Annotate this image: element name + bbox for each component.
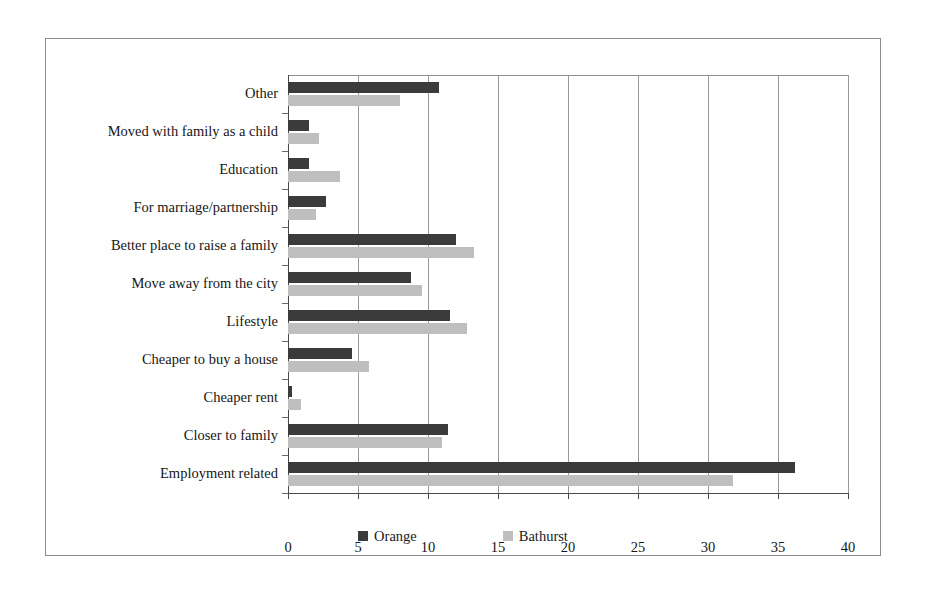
legend-item-bathurst[interactable]: Bathurst	[503, 529, 568, 543]
bar-group	[288, 303, 848, 341]
bar-bathurst[interactable]	[288, 285, 422, 296]
x-tick-mark-35	[778, 494, 779, 499]
gridline-40	[848, 75, 849, 493]
bar-group	[288, 455, 848, 493]
bar-group	[288, 417, 848, 455]
bar-bathurst[interactable]	[288, 247, 474, 258]
bar-group	[288, 75, 848, 113]
bar-orange[interactable]	[288, 386, 292, 397]
category-label: Cheaper to buy a house	[142, 352, 278, 366]
x-tick-mark-25	[638, 494, 639, 499]
bar-group	[288, 379, 848, 417]
bar-orange[interactable]	[288, 424, 448, 435]
bar-orange[interactable]	[288, 158, 309, 169]
bar-bathurst[interactable]	[288, 95, 400, 106]
x-tick-mark-40	[848, 494, 849, 499]
y-tick-mark	[282, 379, 288, 380]
x-tick-mark-0	[288, 494, 289, 499]
category-label: Lifestyle	[226, 314, 278, 328]
bar-group	[288, 189, 848, 227]
y-tick-mark	[282, 113, 288, 114]
bar-bathurst[interactable]	[288, 361, 369, 372]
category-label: Education	[219, 162, 278, 176]
bar-bathurst[interactable]	[288, 437, 442, 448]
bar-group	[288, 265, 848, 303]
bar-orange[interactable]	[288, 462, 795, 473]
bar-orange[interactable]	[288, 272, 411, 283]
bar-orange[interactable]	[288, 310, 450, 321]
bar-bathurst[interactable]	[288, 171, 340, 182]
bar-bathurst[interactable]	[288, 133, 319, 144]
category-label: Better place to raise a family	[111, 238, 278, 252]
chart-legend: Orange Bathurst	[45, 529, 881, 543]
bar-bathurst[interactable]	[288, 475, 733, 486]
y-tick-mark	[282, 303, 288, 304]
bar-orange[interactable]	[288, 234, 456, 245]
bar-group	[288, 341, 848, 379]
y-tick-mark	[282, 341, 288, 342]
category-label: Cheaper rent	[204, 390, 278, 404]
legend-swatch-bathurst	[503, 531, 513, 541]
chart-figure-frame: OtherMoved with family as a childEducati…	[45, 38, 881, 556]
y-tick-mark	[282, 151, 288, 152]
y-tick-mark	[282, 455, 288, 456]
legend-label-bathurst: Bathurst	[519, 529, 568, 543]
legend-item-orange[interactable]: Orange	[358, 529, 417, 543]
x-tick-mark-30	[708, 494, 709, 499]
bar-orange[interactable]	[288, 120, 309, 131]
x-tick-mark-20	[568, 494, 569, 499]
legend-swatch-orange	[358, 531, 368, 541]
bar-bathurst[interactable]	[288, 209, 316, 220]
bar-bathurst[interactable]	[288, 323, 467, 334]
plot-area	[288, 75, 848, 493]
x-tick-mark-5	[358, 494, 359, 499]
bar-orange[interactable]	[288, 196, 326, 207]
bar-group	[288, 151, 848, 189]
category-label: Moved with family as a child	[108, 124, 278, 138]
category-label: For marriage/partnership	[133, 200, 278, 214]
bar-group	[288, 113, 848, 151]
legend-label-orange: Orange	[374, 529, 417, 543]
bar-group	[288, 227, 848, 265]
y-tick-mark	[282, 493, 288, 494]
bar-bathurst[interactable]	[288, 399, 301, 410]
y-tick-mark	[282, 189, 288, 190]
category-label: Closer to family	[184, 428, 278, 442]
category-label: Other	[245, 86, 278, 100]
bar-orange[interactable]	[288, 82, 439, 93]
x-tick-mark-10	[428, 494, 429, 499]
x-tick-mark-15	[498, 494, 499, 499]
category-label: Employment related	[160, 466, 278, 480]
y-tick-mark	[282, 265, 288, 266]
bar-orange[interactable]	[288, 348, 352, 359]
y-tick-mark	[282, 227, 288, 228]
y-tick-mark	[282, 417, 288, 418]
category-label: Move away from the city	[131, 276, 278, 290]
